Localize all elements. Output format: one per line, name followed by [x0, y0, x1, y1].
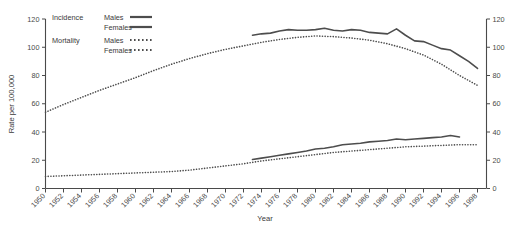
- x-tick-label: 1968: [191, 192, 209, 210]
- series-line-incidence-females: [253, 136, 460, 160]
- x-tick-label: 1974: [245, 192, 263, 210]
- y-tick-label-left: 100: [27, 43, 39, 52]
- y-tick-label-right: 0: [493, 184, 497, 193]
- x-tick-label: 1962: [137, 192, 155, 210]
- y-tick-label-right: 100: [493, 43, 505, 52]
- x-tick-label: 1954: [65, 192, 83, 210]
- x-tick-label: 1964: [155, 192, 173, 210]
- legend-sex-label: Males: [104, 13, 124, 22]
- legend-sex-label: Females: [104, 46, 132, 55]
- x-tick-label: 1952: [47, 192, 65, 210]
- y-axis-title: Rate per 100,000: [7, 75, 16, 134]
- y-tick-label-right: 20: [493, 156, 501, 165]
- x-tick-label: 1998: [461, 192, 479, 210]
- x-tick-label: 1980: [299, 192, 317, 210]
- line-chart: 020406080100120 020406080100120 19501952…: [0, 0, 531, 233]
- y-axis-left: 020406080100120: [27, 15, 45, 194]
- y-tick-label-right: 120: [493, 15, 505, 24]
- y-tick-label-left: 40: [31, 128, 39, 137]
- legend-group-label: Incidence: [52, 13, 83, 22]
- legend-sex-label: Males: [104, 36, 124, 45]
- legend-group-label: Mortality: [52, 36, 80, 45]
- x-tick-label: 1972: [227, 192, 245, 210]
- x-tick-label: 1984: [335, 192, 353, 210]
- x-tick-label: 1996: [443, 192, 461, 210]
- chart-container: 020406080100120 020406080100120 19501952…: [0, 0, 531, 233]
- x-tick-label: 1986: [353, 192, 371, 210]
- y-tick-label-left: 60: [31, 99, 39, 108]
- y-tick-label-right: 40: [493, 128, 501, 137]
- x-axis-title: Year: [257, 214, 273, 223]
- x-tick-label: 1970: [209, 192, 227, 210]
- x-tick-label: 1994: [425, 192, 443, 210]
- series-line-incidence-males: [253, 28, 478, 68]
- x-tick-label: 1958: [101, 192, 119, 210]
- series-line-mortality-females: [46, 145, 478, 177]
- x-tick-label: 1966: [173, 192, 191, 210]
- chart-legend: IncidenceMalesFemalesMortalityMalesFemal…: [52, 13, 152, 55]
- y-axis-right: 020406080100120: [487, 15, 505, 194]
- x-tick-label: 1950: [29, 192, 47, 210]
- y-tick-label-right: 80: [493, 71, 501, 80]
- x-tick-label: 1956: [83, 192, 101, 210]
- x-tick-label: 1988: [371, 192, 389, 210]
- x-tick-label: 1992: [407, 192, 425, 210]
- x-tick-label: 1976: [263, 192, 281, 210]
- x-tick-label: 1982: [317, 192, 335, 210]
- legend-sex-label: Females: [104, 23, 132, 32]
- y-tick-label-right: 60: [493, 99, 501, 108]
- y-tick-label-left: 20: [31, 156, 39, 165]
- y-tick-label-left: 120: [27, 15, 39, 24]
- y-tick-label-left: 0: [35, 184, 39, 193]
- x-tick-label: 1960: [119, 192, 137, 210]
- x-tick-label: 1990: [389, 192, 407, 210]
- x-axis: 1950195219541956195819601962196419661968…: [29, 189, 486, 210]
- y-tick-label-left: 80: [31, 71, 39, 80]
- x-tick-label: 1978: [281, 192, 299, 210]
